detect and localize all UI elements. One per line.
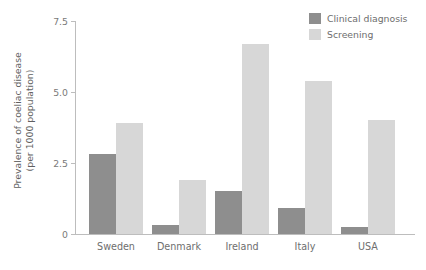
y-axis-title-line-1: Prevalence of coeliac disease — [12, 52, 23, 189]
legend-item-screening: Screening — [309, 29, 407, 40]
bar-italy-screening — [305, 81, 332, 234]
coeliac-prevalence-bar-chart: Prevalence of coeliac disease (per 1000 … — [0, 0, 426, 270]
y-tick-label: 0 — [62, 229, 68, 240]
y-axis-line — [75, 21, 76, 234]
bar-sweden-screening — [116, 123, 143, 234]
bar-denmark-clinical — [152, 225, 179, 234]
y-tick-label: 5.0 — [53, 87, 68, 98]
y-tick-mark — [71, 163, 75, 164]
x-tick-label-sweden: Sweden — [97, 241, 135, 252]
y-tick-label: 7.5 — [53, 16, 68, 27]
x-tick-label-usa: USA — [358, 241, 378, 252]
x-axis-line — [75, 234, 415, 235]
legend-swatch-screening-icon — [309, 29, 321, 40]
y-axis-title-line-2: (per 1000 population) — [23, 52, 35, 189]
y-axis-title: Prevalence of coeliac disease (per 1000 … — [0, 0, 46, 240]
y-tick-mark — [71, 234, 75, 235]
legend-swatch-clinical-icon — [309, 13, 321, 24]
bar-denmark-screening — [179, 180, 206, 234]
x-tick-label-ireland: Ireland — [225, 241, 258, 252]
chart-legend: Clinical diagnosisScreening — [309, 13, 407, 40]
bar-usa-clinical — [341, 227, 368, 234]
bar-usa-screening — [368, 120, 395, 234]
legend-label-clinical: Clinical diagnosis — [327, 13, 407, 24]
y-tick-mark — [71, 21, 75, 22]
x-tick-label-denmark: Denmark — [157, 241, 201, 252]
legend-item-clinical: Clinical diagnosis — [309, 13, 407, 24]
bar-sweden-clinical — [89, 154, 116, 234]
y-tick-label: 2.5 — [53, 158, 68, 169]
legend-label-screening: Screening — [327, 29, 373, 40]
x-tick-label-italy: Italy — [295, 241, 316, 252]
plot-area: 02.55.07.5 SwedenDenmarkIrelandItalyUSA — [75, 21, 415, 234]
bar-ireland-clinical — [215, 191, 242, 234]
bar-ireland-screening — [242, 44, 269, 234]
y-tick-mark — [71, 92, 75, 93]
bar-italy-clinical — [278, 208, 305, 234]
